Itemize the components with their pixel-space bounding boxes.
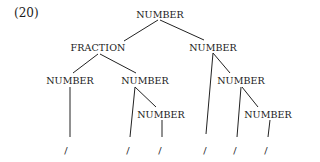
tree-edge [206,53,213,134]
tree-edge [242,87,258,107]
tree-node-fraction: FRACTION [71,42,126,53]
tree-node-number: NUMBER [189,42,237,53]
tree-edge [130,87,135,137]
tree-edge [135,87,156,107]
tree-edge [268,120,270,137]
tree-leaf: / [64,145,67,156]
tree-node-number: NUMBER [137,109,185,120]
tree-leaf: / [233,145,236,156]
tree-node-number: NUMBER [217,75,265,86]
tree-node-number: NUMBER [46,75,94,86]
tree-edge [160,20,204,40]
tree-node-number: NUMBER [121,75,169,86]
tree-leaf: / [126,145,129,156]
tree-node-number: NUMBER [244,109,292,120]
tree-edge [213,53,230,73]
tree-edge [100,54,136,73]
tree-leaf: / [203,145,206,156]
tree-edge [73,54,98,73]
tree-leaf: / [158,145,161,156]
tree-edge [124,20,158,41]
tree-edge [237,87,241,137]
tree-node-number: NUMBER [136,9,184,20]
tree-leaf: / [264,145,267,156]
